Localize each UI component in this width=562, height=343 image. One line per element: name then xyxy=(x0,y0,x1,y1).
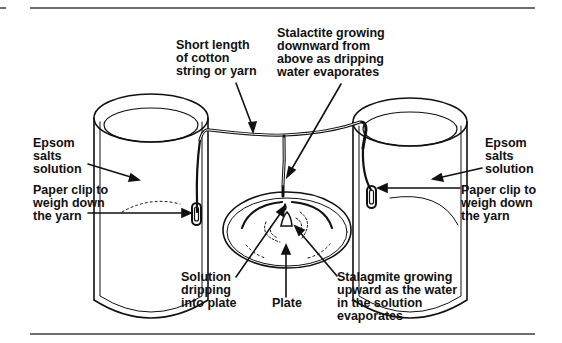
label-string: Short length of cotton string or yarn xyxy=(176,39,257,78)
leader-arrows xyxy=(88,83,482,297)
label-paperclip-right: Paper clip to weigh down the yarn xyxy=(461,184,536,223)
label-paperclip-left: Paper clip to weigh down the yarn xyxy=(33,184,108,223)
label-epsom-right: Epsom salts solution xyxy=(485,137,534,176)
label-dripping: Solution dripping into plate xyxy=(181,271,237,310)
yarn-string-icon xyxy=(200,122,366,196)
plate-icon xyxy=(223,192,351,268)
label-stalactite: Stalactite growing downward from above a… xyxy=(277,27,385,79)
label-epsom-left: Epsom salts solution xyxy=(33,137,82,176)
label-stalagmite: Stalagmite growing upward as the water i… xyxy=(337,271,457,323)
label-plate: Plate xyxy=(272,297,302,310)
